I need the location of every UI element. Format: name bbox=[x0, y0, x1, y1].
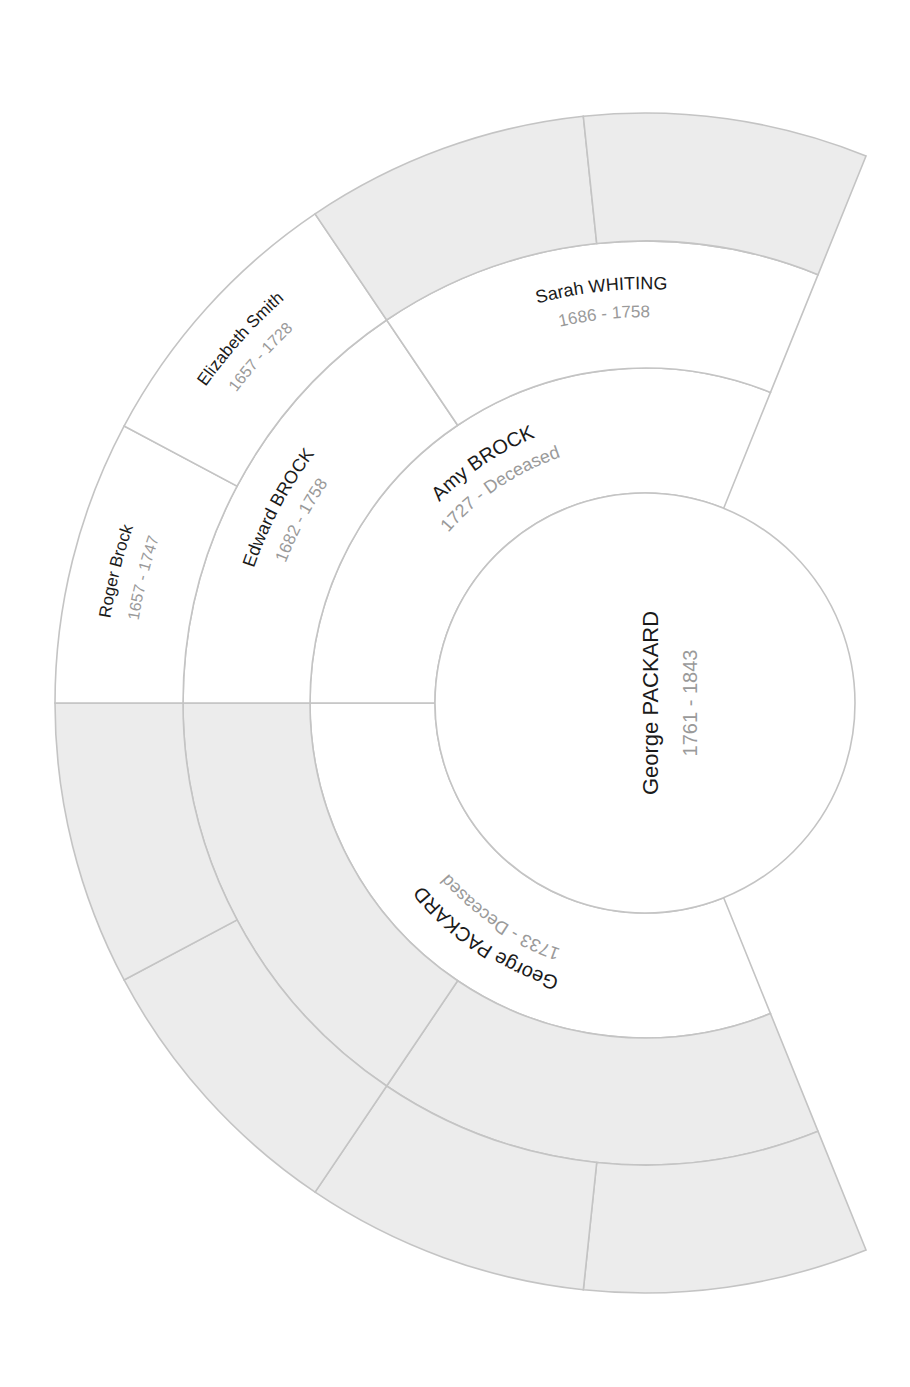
root-person-dates: 1761 - 1843 bbox=[679, 650, 701, 757]
root-person-name: George PACKARD bbox=[638, 611, 663, 795]
root-person[interactable]: George PACKARD 1761 - 1843 bbox=[435, 493, 855, 913]
ancestor-fan-chart: George PACKARD 1761 - 1843 George PACKAR… bbox=[0, 0, 910, 1387]
